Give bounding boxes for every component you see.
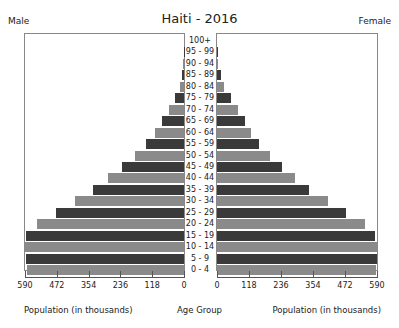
male-bar: [56, 208, 184, 218]
male-axis-tick: [89, 271, 90, 277]
age-group-label: 75 - 79: [183, 93, 217, 103]
female-bar: [217, 173, 295, 183]
male-bar: [26, 231, 184, 241]
female-axis-tick-label: 236: [266, 281, 296, 290]
age-group-label: 10 - 14: [183, 242, 217, 252]
age-group-label: 65 - 69: [183, 116, 217, 126]
female-bar: [217, 47, 218, 57]
female-bar: [217, 105, 238, 115]
female-bar: [217, 219, 365, 229]
female-bar: [217, 139, 259, 149]
female-bar: [217, 59, 218, 69]
female-axis-tick: [377, 271, 378, 277]
age-group-label: 50 - 54: [183, 151, 217, 161]
age-group-label: 25 - 29: [183, 208, 217, 218]
male-axis-tick: [152, 271, 153, 277]
male-axis-tick: [25, 271, 26, 277]
female-axis-tick: [217, 271, 218, 277]
female-axis-title: Population (in thousands): [272, 305, 381, 315]
chart-title: Haiti - 2016: [0, 11, 399, 26]
female-axis-tick-label: 590: [362, 281, 392, 290]
age-group-label: 15 - 19: [183, 231, 217, 241]
age-group-label: 90 - 94: [183, 59, 217, 69]
male-bar: [93, 185, 184, 195]
female-bar: [217, 265, 376, 275]
female-axis-tick: [313, 271, 314, 277]
female-axis-tick-label: 0: [202, 281, 232, 290]
female-bar: [217, 254, 377, 264]
female-axis-tick: [345, 271, 346, 277]
age-group-label: 70 - 74: [183, 105, 217, 115]
male-bar: [162, 116, 184, 126]
female-bar: [217, 151, 270, 161]
female-bar: [217, 231, 375, 241]
male-axis-tick: [184, 271, 185, 277]
male-bar: [135, 151, 184, 161]
male-bar: [26, 254, 184, 264]
male-axis-tick-label: 118: [137, 281, 167, 290]
female-bar: [217, 128, 251, 138]
female-bar: [217, 93, 231, 103]
age-group-label: 45 - 49: [183, 162, 217, 172]
female-axis-line: [217, 277, 378, 278]
male-axis-tick-label: 354: [74, 281, 104, 290]
male-bar: [25, 242, 184, 252]
male-axis-line: [25, 277, 185, 278]
age-group-label: 85 - 89: [183, 70, 217, 80]
male-bar: [155, 128, 184, 138]
female-bar: [217, 242, 377, 252]
female-axis-tick-label: 118: [234, 281, 264, 290]
male-bar: [122, 162, 184, 172]
age-group-label: 95 - 99: [183, 47, 217, 57]
female-axis-tick-label: 354: [298, 281, 328, 290]
female-bar: [217, 70, 221, 80]
male-bar: [146, 139, 184, 149]
female-bar: [217, 116, 245, 126]
female-bar: [217, 185, 309, 195]
male-axis-tick: [57, 271, 58, 277]
age-group-label: 35 - 39: [183, 185, 217, 195]
age-group-label: 40 - 44: [183, 173, 217, 183]
age-group-label: 55 - 59: [183, 139, 217, 149]
female-axis-tick-label: 472: [330, 281, 360, 290]
female-bar: [217, 196, 328, 206]
female-bar: [217, 162, 282, 172]
age-group-label: 100+: [183, 36, 217, 46]
male-bar: [27, 265, 184, 275]
age-group-label: 20 - 24: [183, 219, 217, 229]
female-bar: [217, 82, 224, 92]
age-group-label: 5 - 9: [183, 254, 217, 264]
male-axis-tick-label: 590: [10, 281, 40, 290]
age-group-label: 60 - 64: [183, 128, 217, 138]
male-axis-tick-label: 236: [105, 281, 135, 290]
female-axis-tick: [281, 271, 282, 277]
female-bar: [217, 208, 346, 218]
male-axis-tick-label: 0: [169, 281, 199, 290]
age-group-label: 80 - 84: [183, 82, 217, 92]
male-bar: [108, 173, 184, 183]
male-bar: [169, 105, 184, 115]
female-label: Female: [358, 16, 391, 26]
age-group-label: 30 - 34: [183, 196, 217, 206]
male-bar: [75, 196, 184, 206]
male-bar: [37, 219, 184, 229]
male-axis-tick-label: 472: [42, 281, 72, 290]
female-axis-tick: [249, 271, 250, 277]
age-group-label: 0 - 4: [183, 265, 217, 275]
male-axis-tick: [120, 271, 121, 277]
